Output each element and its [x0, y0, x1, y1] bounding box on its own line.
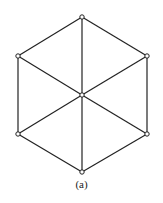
wheel-graph: [0, 0, 163, 203]
vertex-center: [80, 93, 84, 97]
edge-center-upper-left: [18, 56, 82, 95]
figure-caption: (a): [0, 178, 163, 190]
vertex-lower-left: [16, 132, 20, 136]
vertex-upper-left: [16, 54, 20, 58]
vertex-bottom: [80, 170, 84, 174]
edge-center-lower-left: [18, 95, 82, 134]
vertex-lower-right: [145, 132, 149, 136]
vertex-upper-right: [145, 54, 149, 58]
edge-bottom-lower-left: [18, 134, 82, 172]
vertex-top: [80, 15, 84, 19]
edge-lower-right-bottom: [82, 134, 147, 172]
edge-top-upper-right: [82, 17, 147, 56]
edge-center-lower-right: [82, 95, 147, 134]
edge-upper-left-top: [18, 17, 82, 56]
edge-center-upper-right: [82, 56, 147, 95]
